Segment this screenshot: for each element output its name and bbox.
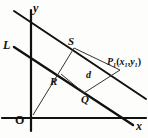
origin-label: O: [15, 114, 24, 126]
geometry-figure: y x O L S R Q d P1(x1,y1): [0, 0, 148, 138]
y-axis-label: y: [33, 2, 38, 14]
point-p1-close-paren: ): [138, 56, 141, 67]
distance-label: d: [86, 70, 91, 80]
point-p1-label: P1(x1,y1): [107, 57, 141, 68]
parallel-line-through-p1: [14, 11, 146, 99]
point-q-label: Q: [81, 94, 89, 105]
point-s-label: S: [68, 36, 74, 47]
point-r-label: R: [50, 76, 57, 87]
construction-line-r-to-q: [61, 74, 84, 93]
x-axis-label: x: [136, 120, 142, 132]
line-L-label: L: [3, 39, 10, 51]
